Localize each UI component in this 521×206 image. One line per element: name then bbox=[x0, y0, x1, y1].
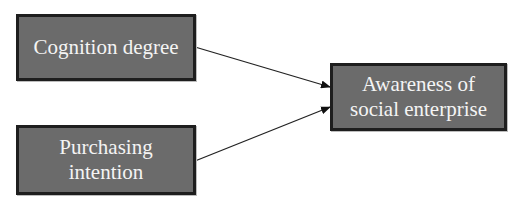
node-label: Cognition degree bbox=[33, 35, 178, 60]
node-awareness-of-social-enterprise: Awareness of social enterprise bbox=[330, 63, 507, 131]
node-purchasing-intention: Purchasing intention bbox=[16, 125, 196, 195]
edge-purchasing-to-awareness bbox=[195, 107, 330, 161]
node-cognition-degree: Cognition degree bbox=[16, 14, 196, 81]
edge-cognition-to-awareness bbox=[195, 47, 330, 87]
node-label-line1: Purchasing bbox=[59, 135, 152, 160]
node-label-line2: intention bbox=[69, 160, 144, 185]
node-label-line2: social enterprise bbox=[350, 97, 487, 122]
node-label-line1: Awareness of bbox=[362, 72, 475, 97]
